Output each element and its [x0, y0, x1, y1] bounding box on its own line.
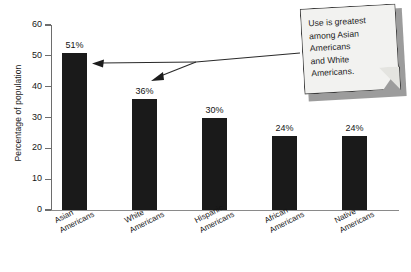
y-axis-tick-label: 60: [17, 19, 42, 29]
bar-value-label: 51%: [55, 40, 95, 50]
x-axis-category-label: NativeAmericans: [333, 200, 376, 236]
bar-value-label: 24%: [265, 123, 305, 133]
y-axis-tick-label: 0: [17, 204, 42, 214]
y-axis-tick-label: 50: [17, 50, 42, 60]
y-axis-tick: [45, 24, 51, 25]
x-axis-category-label: HispanicAmericans: [193, 200, 236, 236]
y-axis-tick-label: 40: [17, 81, 42, 91]
y-axis-tick-label: 10: [17, 173, 42, 183]
bar: [202, 118, 227, 211]
bar: [342, 136, 367, 210]
bar-value-label: 30%: [195, 105, 235, 115]
y-axis-line: [51, 25, 52, 211]
bar-value-label: 36%: [125, 86, 165, 96]
y-axis-tick: [45, 86, 51, 87]
y-axis-tick: [45, 179, 51, 180]
y-axis-tick: [45, 55, 51, 56]
y-axis-tick-label: 30: [17, 112, 42, 122]
bar-chart-figure: Percentage of population 0102030405060 5…: [0, 0, 411, 272]
x-axis-category-label: AfricanAmericans: [263, 200, 306, 236]
y-axis-tick: [45, 148, 51, 149]
callout-text: Use is greatestamong AsianAmericansand W…: [308, 13, 395, 81]
bar: [272, 136, 297, 210]
x-axis-category-label: AsianAmericans: [53, 200, 96, 236]
y-axis-tick-label: 20: [17, 142, 42, 152]
x-axis-category-label: WhiteAmericans: [123, 200, 166, 236]
bar: [62, 53, 87, 210]
y-axis-tick: [45, 117, 51, 118]
callout-note: Use is greatestamong AsianAmericansand W…: [300, 3, 403, 96]
bar: [132, 99, 157, 210]
y-axis-tick: [45, 209, 51, 210]
bar-value-label: 24%: [335, 123, 375, 133]
